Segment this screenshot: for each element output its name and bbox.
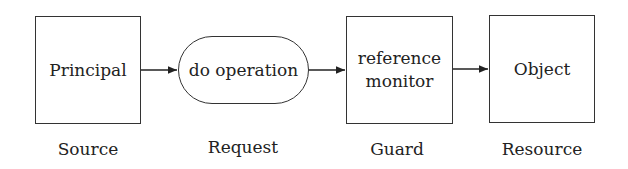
caption-guard: Guard xyxy=(332,139,462,159)
caption-request: Request xyxy=(178,137,308,157)
caption-resource: Resource xyxy=(477,139,607,159)
object-label: Object xyxy=(514,58,571,81)
principal-label: Principal xyxy=(49,59,126,82)
guard-label-line1: reference xyxy=(358,47,441,70)
request-node: do operation xyxy=(178,36,309,104)
principal-node: Principal xyxy=(35,16,141,124)
object-node: Object xyxy=(489,15,595,123)
guard-label-line2: monitor xyxy=(366,70,434,93)
guard-node: reference monitor xyxy=(346,16,453,124)
request-label: do operation xyxy=(189,59,298,82)
caption-source: Source xyxy=(23,139,153,159)
